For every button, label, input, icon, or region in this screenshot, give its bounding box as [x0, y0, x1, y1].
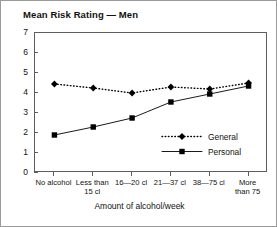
chart-legend: GeneralPersonal: [161, 129, 241, 159]
x-tick-mark: [92, 172, 93, 176]
x-tick-label: Morethan 75: [235, 178, 260, 196]
data-point-personal: [207, 91, 212, 96]
data-point-personal: [168, 99, 173, 104]
y-tick-label: 7: [23, 27, 28, 37]
data-point-personal: [129, 115, 134, 120]
y-axis-labels: 76543210: [1, 32, 28, 172]
x-tick-mark: [209, 172, 210, 176]
x-axis-title: Amount of alcohol/week: [1, 201, 277, 211]
legend-label: General: [208, 132, 238, 142]
x-tick-mark: [248, 172, 249, 176]
legend-swatch-square-icon: [161, 146, 203, 157]
y-tick-label: 4: [23, 87, 28, 97]
x-tick-mark: [53, 172, 54, 176]
x-tick-label-line: 21—37 cl: [154, 178, 186, 187]
data-point-general: [51, 81, 58, 88]
y-tick-label: 5: [23, 67, 28, 77]
data-point-personal: [246, 83, 251, 88]
legend-swatch-diamond-icon: [161, 131, 203, 142]
x-tick-label: Less than15 cl: [76, 178, 109, 196]
x-tick-label-line: More: [235, 178, 260, 187]
data-point-general: [90, 85, 97, 92]
x-tick-label: 21—37 cl: [154, 178, 186, 187]
legend-label: Personal: [208, 147, 241, 157]
series-line-general: [54, 83, 248, 93]
y-tick-label: 2: [23, 127, 28, 137]
legend-item-general: General: [161, 129, 241, 144]
x-tick-label-line: Less than: [76, 178, 109, 187]
data-point-personal: [52, 132, 57, 137]
series-line-personal: [54, 86, 248, 135]
x-tick-label: 38—75 cl: [193, 178, 225, 187]
y-tick-label: 0: [23, 167, 28, 177]
x-tick-label: No alcohol: [35, 178, 71, 187]
y-tick-label: 1: [23, 147, 28, 157]
x-tick-label-line: than 75: [235, 187, 260, 196]
data-point-general: [129, 90, 136, 97]
data-point-general: [168, 84, 175, 91]
y-tick-label: 3: [23, 107, 28, 117]
x-tick-label: 16—20 cl: [115, 178, 147, 187]
x-tick-mark: [170, 172, 171, 176]
x-tick-label-line: 38—75 cl: [193, 178, 225, 187]
x-tick-label-line: No alcohol: [35, 178, 71, 187]
x-tick-mark: [131, 172, 132, 176]
data-point-personal: [91, 124, 96, 129]
x-tick-label-line: 15 cl: [76, 187, 109, 196]
legend-item-personal: Personal: [161, 144, 241, 159]
chart-figure: Mean Risk Rating — Men 76543210 No alcoh…: [0, 0, 277, 227]
chart-title: Mean Risk Rating — Men: [23, 9, 138, 20]
x-tick-label-line: 16—20 cl: [115, 178, 147, 187]
y-tick-label: 6: [23, 47, 28, 57]
